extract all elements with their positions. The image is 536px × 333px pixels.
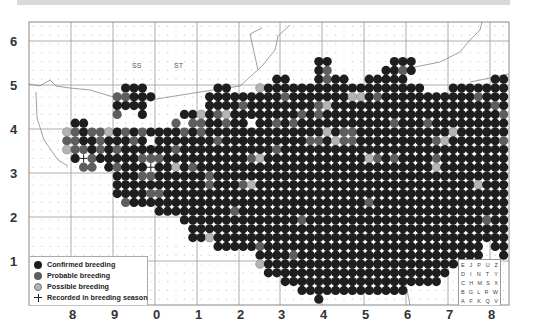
tetrad-letter: T	[486, 271, 489, 277]
x-axis-label: 3	[278, 307, 285, 322]
tetrad-letter: V	[494, 298, 498, 304]
tetrad-letter: Z	[495, 262, 498, 268]
x-axis-label: 9	[111, 307, 118, 322]
x-axis-label: 7	[446, 307, 453, 322]
y-axis-label: 4	[10, 122, 17, 137]
tetrad-letter: S	[486, 280, 490, 286]
y-axis-label: 3	[10, 166, 17, 181]
legend: Confirmed breeding Probable breeding Pos…	[30, 256, 148, 305]
tetrad-letter: G	[469, 289, 473, 295]
tetrad-letter: N	[477, 271, 481, 277]
tetrad-letter: F	[469, 298, 472, 304]
tetrad-letter: P	[477, 262, 481, 268]
x-axis-label: 4	[320, 307, 327, 322]
tetrad-letter: R	[485, 289, 489, 295]
x-axis-label: 1	[195, 307, 202, 322]
plus-icon	[34, 294, 42, 302]
x-axis-label: 2	[237, 307, 244, 322]
x-axis-label: 5	[362, 307, 369, 322]
tetrad-letter: Y	[494, 271, 498, 277]
tetrad-letter: A	[461, 298, 465, 304]
tetrad-letter: E	[461, 262, 465, 268]
y-axis-label: 6	[10, 34, 17, 49]
tetrad-letter: J	[470, 262, 473, 268]
tetrad-letter: U	[486, 262, 490, 268]
y-axis-label: 1	[10, 254, 17, 269]
legend-label: Probable breeding	[47, 271, 110, 280]
y-axis-label: 5	[10, 78, 17, 93]
legend-label: Confirmed breeding	[47, 260, 115, 269]
legend-item-possible: Possible breeding	[34, 281, 109, 292]
y-axis-label: 2	[10, 210, 17, 225]
tetrad-row: E J P U Z	[459, 260, 500, 269]
possible-dot-icon	[34, 283, 42, 291]
x-axis-label: 6	[404, 307, 411, 322]
x-axis-label: 0	[153, 307, 160, 322]
tetrad-letter: W	[493, 289, 498, 295]
tetrad-letter: I	[470, 271, 472, 277]
grid-square-label: ST	[174, 62, 183, 69]
legend-item-confirmed: Confirmed breeding	[34, 259, 115, 270]
tetrad-row: C H M S X	[459, 278, 500, 287]
tetrad-letter: H	[469, 280, 473, 286]
tetrad-row: A F K Q V	[459, 296, 500, 305]
tetrad-letter: Q	[485, 298, 489, 304]
legend-item-recorded: Recorded in breeding season	[34, 292, 148, 303]
legend-label: Recorded in breeding season	[47, 293, 148, 302]
tetrad-letter: D	[461, 271, 465, 277]
tetrad-row: B G L R W	[459, 287, 500, 296]
probable-dot-icon	[34, 272, 42, 280]
confirmed-dot-icon	[34, 261, 42, 269]
tetrad-row: D I N T Y	[459, 269, 500, 278]
grid-square-label: SS	[132, 62, 141, 69]
tetrad-letter: L	[477, 289, 480, 295]
legend-label: Possible breeding	[47, 282, 109, 291]
legend-item-probable: Probable breeding	[34, 270, 110, 281]
tetrad-key: E J P U Z D I N T Y C H M S X B G L R W …	[458, 259, 501, 305]
x-axis-label: 8	[488, 307, 495, 322]
tetrad-letter: C	[461, 280, 465, 286]
tetrad-letter: K	[477, 298, 481, 304]
tetrad-letter: X	[494, 280, 498, 286]
tetrad-letter: M	[478, 280, 483, 286]
tetrad-letter: B	[461, 289, 465, 295]
x-axis-label: 8	[69, 307, 76, 322]
